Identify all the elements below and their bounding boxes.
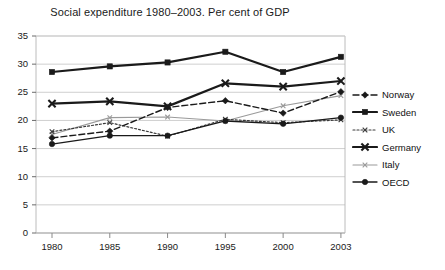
data-point-marker xyxy=(281,69,286,74)
legend-item-italy[interactable]: Italy xyxy=(352,156,444,174)
y-axis-tick-label: 10 xyxy=(6,171,28,182)
series-line xyxy=(52,52,341,72)
data-point-marker xyxy=(338,115,343,120)
data-point-marker xyxy=(107,64,112,69)
series-line xyxy=(52,81,341,106)
y-axis-tick-label: 15 xyxy=(6,143,28,154)
legend-swatch-germany-icon xyxy=(352,140,378,154)
x-axis-tick-label: 2000 xyxy=(263,241,303,252)
data-point-marker xyxy=(280,121,285,126)
legend-item-sweden[interactable]: Sweden xyxy=(352,104,444,122)
y-axis-tick-label: 20 xyxy=(6,114,28,125)
legend-swatch-italy-icon xyxy=(352,158,378,172)
chart-legend: NorwaySwedenUKGermanyItalyOECD xyxy=(352,86,444,191)
series-line xyxy=(52,92,341,138)
legend-item-uk[interactable]: UK xyxy=(352,121,444,139)
y-axis-tick-label: 0 xyxy=(6,227,28,238)
data-point-marker xyxy=(362,110,367,115)
x-axis-tick-label: 1980 xyxy=(32,241,72,252)
legend-label: Germany xyxy=(382,143,421,153)
legend-label: OECD xyxy=(382,178,409,188)
data-point-marker xyxy=(49,135,55,141)
data-point-marker xyxy=(222,98,228,104)
series-sweden xyxy=(49,49,343,74)
legend-label: Sweden xyxy=(382,108,416,118)
data-point-marker xyxy=(223,118,228,123)
legend-item-germany[interactable]: Germany xyxy=(352,139,444,157)
data-point-marker xyxy=(49,141,54,146)
legend-label: Italy xyxy=(382,160,399,170)
legend-item-norway[interactable]: Norway xyxy=(352,86,444,104)
series-italy xyxy=(50,93,344,136)
y-axis-tick-label: 25 xyxy=(6,86,28,97)
x-axis-tick-label: 1985 xyxy=(90,241,130,252)
legend-label: UK xyxy=(382,125,395,135)
legend-label: Norway xyxy=(382,90,414,100)
y-axis-tick-label: 5 xyxy=(6,199,28,210)
legend-item-oecd[interactable]: OECD xyxy=(352,174,444,192)
x-axis-tick-label: 1995 xyxy=(205,241,245,252)
chart-container: Social expenditure 1980–2003. Per cent o… xyxy=(0,0,445,270)
legend-swatch-norway-icon xyxy=(352,88,378,102)
series-germany xyxy=(48,77,344,110)
data-point-marker xyxy=(362,92,368,98)
data-point-marker xyxy=(107,128,113,134)
data-point-marker xyxy=(338,54,343,59)
legend-swatch-sweden-icon xyxy=(352,105,378,119)
legend-swatch-oecd-icon xyxy=(352,175,378,189)
y-axis-tick-label: 35 xyxy=(6,30,28,41)
y-axis-tick-label: 30 xyxy=(6,58,28,69)
data-point-marker xyxy=(280,110,286,116)
series-norway xyxy=(49,89,344,142)
x-axis-tick-label: 1990 xyxy=(148,241,188,252)
data-point-marker xyxy=(362,180,367,185)
x-axis-tick-label: 2003 xyxy=(321,241,361,252)
data-point-marker xyxy=(165,60,170,65)
data-point-marker xyxy=(49,69,54,74)
series-oecd xyxy=(49,115,343,147)
data-point-marker xyxy=(165,133,170,138)
legend-swatch-uk-icon xyxy=(352,123,378,137)
data-point-marker xyxy=(223,49,228,54)
